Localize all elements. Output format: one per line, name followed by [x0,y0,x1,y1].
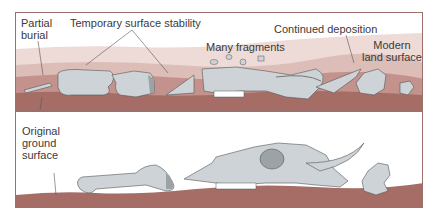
label-line: Modern [362,39,422,51]
bone-vertebra [362,163,390,195]
skull-eye-socket [260,149,284,169]
label-line: burial [21,29,52,41]
label-line: surface [22,149,60,161]
label-modern-land-surface: Modern land surface [362,39,422,63]
skull-teeth [214,91,244,97]
fragment-4 [258,56,264,61]
bone-femur-shadow [166,173,173,189]
bottom-panel [16,143,423,208]
bone-block-fragment [112,71,155,97]
label-line: Original [22,125,60,137]
label-partial-burial: Partial burial [21,17,52,41]
label-original-ground-surface: Original ground surface [22,125,60,161]
fragment-1 [210,60,218,65]
label-line: land surface [362,51,422,63]
label-continued-deposition: Continued deposition [274,23,377,35]
leader-original-surface [54,173,56,195]
label-line: Partial [21,17,52,29]
diagram-frame: Partial burial Temporary surface stabili… [15,12,423,208]
label-temporary-surface-stability: Temporary surface stability [70,17,201,29]
skull-teeth-bottom [216,183,256,189]
label-line: ground [22,137,60,149]
bone-femur-fragment [58,69,114,95]
label-many-fragments: Many fragments [206,41,285,53]
fragment-2 [226,55,232,60]
panel-divider [16,110,423,112]
bone-femur [77,165,174,193]
fragment-3 [240,59,246,65]
